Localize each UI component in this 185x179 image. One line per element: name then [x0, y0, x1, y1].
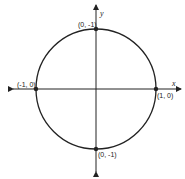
point-right: [154, 87, 158, 91]
x-axis-label: x: [171, 79, 176, 88]
point-label-top: (0, -1): [78, 21, 97, 29]
point-label-left: (-1, 0): [17, 81, 36, 89]
unit-circle-diagram: y x (0, -1) (-1, 0) (1, 0) (0, -1): [0, 0, 185, 179]
point-label-bottom: (0, -1): [98, 151, 117, 159]
point-label-right: (1, 0): [157, 92, 173, 100]
y-axis-label: y: [99, 9, 104, 18]
